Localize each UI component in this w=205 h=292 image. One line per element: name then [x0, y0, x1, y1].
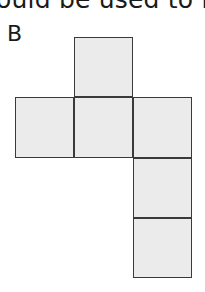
option-label: B — [7, 21, 22, 46]
net-square-middle-right — [133, 97, 192, 158]
net-square-lower-right-1 — [133, 158, 192, 218]
net-square-top — [74, 37, 133, 97]
net-square-middle-left — [15, 97, 74, 158]
net-square-lower-right-2 — [133, 218, 192, 278]
net-square-middle-center — [74, 97, 133, 158]
question-text-fragment: ould be used to m — [0, 0, 205, 14]
